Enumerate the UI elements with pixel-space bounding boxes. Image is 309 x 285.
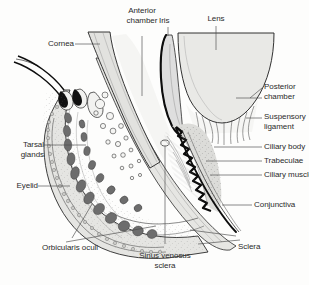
label-cornea: Cornea — [24, 39, 74, 49]
lens-structure — [178, 33, 274, 123]
label-ciliary-muscle: Ciliary muscle — [264, 170, 309, 180]
label-eyelid: Eyelid — [0, 181, 38, 191]
label-ciliary-body: Ciliary body — [264, 142, 305, 152]
label-sclera: Sclera — [238, 242, 260, 252]
eyelashes — [14, 56, 64, 98]
label-lens: Lens — [196, 14, 236, 24]
label-orbicularis-oculi: Orbicularis oculi — [16, 243, 124, 253]
label-conjunctiva: Conjunctiva — [254, 200, 295, 210]
label-iris: Iris — [159, 16, 169, 26]
label-suspensory-ligament: Suspensory ligament — [264, 112, 306, 131]
label-posterior-chamber: Posterior chamber — [264, 82, 296, 101]
eye-anatomy-diagram: Anterior chamber Iris Lens Cornea Poster… — [0, 0, 309, 285]
label-sinus-venosus-sclera: Sinus venosus sclera — [122, 251, 208, 270]
label-trabeculae: Trabeculae — [264, 156, 303, 166]
label-tarsal-glands: Tarsal glands — [2, 140, 44, 159]
sinus-venosus-sclera-structure — [161, 140, 169, 146]
